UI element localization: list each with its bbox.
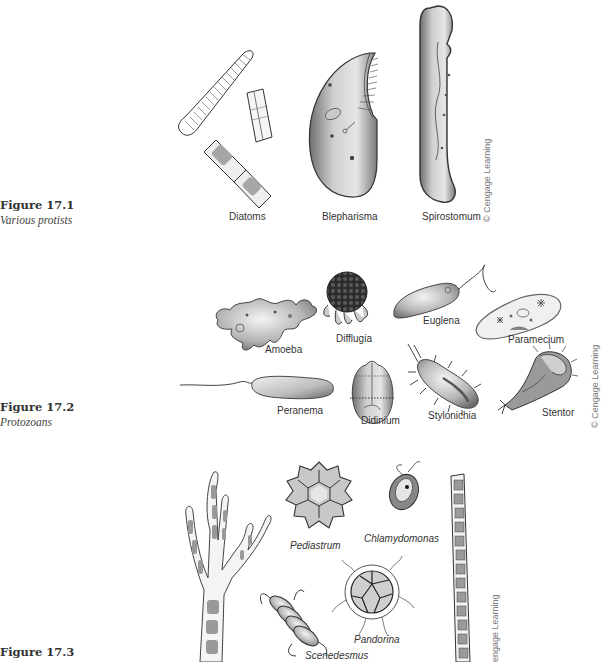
pandorina-icon: [332, 556, 414, 636]
label-pandorina: Pandorina: [354, 634, 400, 645]
figure-17-3-credit: engage Learning: [490, 594, 500, 662]
label-chlamydomonas: Chlamydomonas: [364, 533, 439, 544]
label-scenedesmus: Scenedesmus: [305, 650, 368, 661]
chlamydomonas-icon: [385, 462, 424, 514]
pediastrum-icon: [286, 462, 352, 528]
filament-alga-icon: [451, 474, 470, 662]
scenedesmus-icon: [260, 590, 326, 656]
figure-17-3-illustration: [0, 0, 604, 662]
label-pediastrum: Pediastrum: [290, 540, 341, 551]
